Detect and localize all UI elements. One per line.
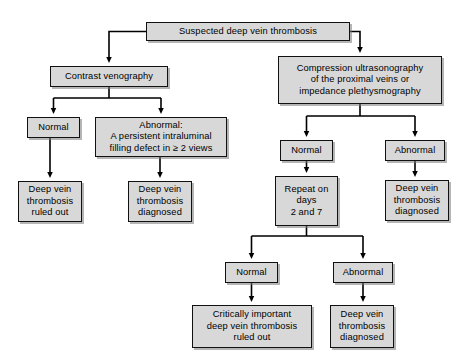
connector-compression-ultrasonography-split	[307, 104, 416, 116]
node-venography-abnormal-outcome: Deep vein thrombosis diagnosed	[128, 181, 192, 222]
node-venography-normal: Normal	[27, 117, 80, 138]
node-suspected-deep-vein-thrombosis: Suspected deep vein thrombosis	[146, 22, 350, 41]
node-repeat-normal-outcome: Critically important deep vein thrombosi…	[192, 305, 312, 348]
flowchart-canvas: Suspected deep vein thrombosis Contrast …	[0, 0, 468, 362]
connector-root-to-compression-ultrasonography	[350, 32, 360, 51]
connector-repeat-split	[252, 226, 364, 236]
node-repeat-normal: Normal	[225, 262, 278, 283]
node-repeat-testing: Repeat on days 2 and 7	[275, 176, 338, 226]
node-repeat-abnormal: Abnormal	[333, 262, 393, 283]
node-compression-ultrasonography: Compression ultrasonography of the proxi…	[278, 56, 442, 104]
node-us-abnormal: Abnormal	[385, 140, 445, 161]
node-venography-abnormal: Abnormal: A persistent intraluminal fill…	[95, 117, 227, 157]
connector-contrast-venography-split	[54, 87, 162, 98]
connector-root-to-contrast-venography	[109, 32, 146, 61]
node-repeat-abnormal-outcome: Deep vein thrombosis diagnosed	[330, 305, 394, 348]
node-us-normal: Normal	[280, 140, 333, 161]
node-venography-normal-outcome: Deep vein thrombosis ruled out	[18, 181, 82, 222]
node-us-abnormal-outcome: Deep vein thrombosis diagnosed	[385, 180, 449, 221]
node-contrast-venography: Contrast venography	[50, 66, 168, 87]
